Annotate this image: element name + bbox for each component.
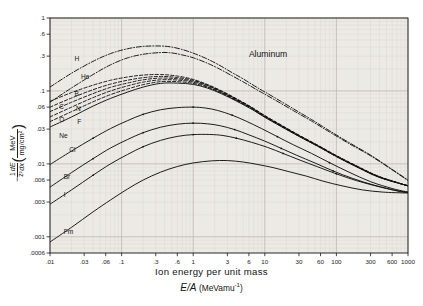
data-marker bbox=[231, 114, 233, 116]
y-axis-title: − 1 z² dE dx ( MeV mg/cm² ) bbox=[0, 88, 34, 218]
y-tick-label: .03 bbox=[36, 125, 45, 132]
data-marker bbox=[142, 146, 144, 148]
data-marker bbox=[192, 134, 194, 136]
x-tick-label: .6 bbox=[175, 258, 181, 265]
curve-label-b: B bbox=[75, 90, 80, 97]
x-axis-title-line2: E/A (MeVamu-1) bbox=[0, 282, 423, 293]
curve-label-br: Br bbox=[64, 173, 71, 180]
x-axis-title-line1: Ion energy per unit mass bbox=[0, 266, 423, 277]
data-marker bbox=[234, 129, 236, 131]
curve-label-i: I bbox=[64, 191, 66, 198]
x-tick-label: 1 bbox=[191, 258, 195, 265]
y-tick-label: .06 bbox=[36, 103, 45, 110]
x-tick-label: 30 bbox=[296, 258, 303, 265]
data-marker bbox=[282, 153, 284, 155]
x-tick-label: 60 bbox=[317, 258, 324, 265]
y-unit-open-paren: ( bbox=[9, 158, 26, 163]
y-unit-fraction: MeV mg/cm² bbox=[9, 129, 26, 158]
data-marker bbox=[192, 106, 194, 108]
x-tick-label: .3 bbox=[153, 258, 159, 265]
data-marker bbox=[92, 158, 94, 160]
curve-label-cl: Cl bbox=[69, 146, 76, 153]
data-marker bbox=[277, 136, 279, 138]
x-tick-label: .01 bbox=[46, 258, 55, 265]
y-tick-label: .0006 bbox=[30, 249, 46, 256]
plot-canvas: HHeBCNOFNeClBrIFm .01.03.06.1.3.61361030… bbox=[0, 0, 423, 306]
y-tick-label: .1 bbox=[40, 87, 46, 94]
x-tick-label: .06 bbox=[101, 258, 110, 265]
x-tick-label: 100 bbox=[331, 258, 342, 265]
x-tick-label: .03 bbox=[80, 258, 89, 265]
data-marker bbox=[336, 173, 338, 175]
y-tick-label: 1 bbox=[42, 14, 46, 21]
y-tick-label: .01 bbox=[36, 160, 45, 167]
y-tick-label: .003 bbox=[33, 198, 46, 205]
y-tick-label: .006 bbox=[33, 176, 46, 183]
x-tick-label: 3 bbox=[226, 258, 230, 265]
y-dedx-fraction: dE dx bbox=[9, 163, 25, 172]
curve-label-h: H bbox=[75, 55, 80, 62]
y-minus-sign: − bbox=[12, 177, 22, 182]
curve-label-ne: Ne bbox=[59, 132, 68, 139]
data-marker bbox=[142, 132, 144, 134]
x-axis-symbol: E/A bbox=[180, 282, 196, 293]
data-marker bbox=[192, 122, 194, 124]
curve-label-n: N bbox=[76, 105, 81, 112]
x-tick-label: 6 bbox=[247, 258, 251, 265]
material-annotation: Aluminum bbox=[249, 49, 287, 59]
data-marker bbox=[142, 113, 144, 115]
stopping-power-plot: HHeBCNOFNeClBrIFm .01.03.06.1.3.61361030… bbox=[0, 0, 423, 306]
data-marker bbox=[332, 170, 334, 172]
curve-label-fm: Fm bbox=[64, 228, 74, 235]
x-tick-label: 300 bbox=[365, 258, 376, 265]
curve-label-f: F bbox=[77, 118, 81, 125]
data-marker bbox=[92, 137, 94, 139]
y-tick-label: .001 bbox=[33, 233, 46, 240]
data-marker bbox=[280, 148, 282, 150]
curve-label-he: He bbox=[81, 73, 90, 80]
x-tick-label: .1 bbox=[119, 258, 125, 265]
data-marker bbox=[235, 137, 237, 139]
y-unit-close-paren: ) bbox=[9, 124, 26, 129]
x-tick-label: 600 bbox=[387, 258, 398, 265]
chart-figure: HHeBCNOFNeClBrIFm .01.03.06.1.3.61361030… bbox=[0, 0, 423, 306]
y-tick-label: .3 bbox=[40, 52, 46, 59]
data-marker bbox=[329, 162, 331, 164]
x-axis-units-close: ) bbox=[240, 283, 243, 293]
x-axis-units-open: (MeVamu bbox=[199, 283, 235, 293]
plot-background bbox=[50, 18, 408, 253]
x-tick-label: 10 bbox=[261, 258, 268, 265]
x-tick-label: 1000 bbox=[401, 258, 415, 265]
y-tick-label: .6 bbox=[40, 30, 46, 37]
data-marker bbox=[92, 174, 94, 176]
curve-label-o: O bbox=[59, 116, 64, 123]
curve-label-c: C bbox=[59, 103, 64, 110]
y-inverse-z-squared: 1 z² bbox=[10, 171, 24, 177]
